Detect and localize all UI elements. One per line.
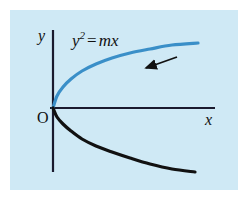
figure-root: y2=mx y x O [0,0,248,200]
equation-label: y2=mx [72,30,118,49]
x-axis-label: x [205,112,212,128]
equation-operator: = [85,31,99,50]
y-axis-label: y [38,28,45,44]
direction-arrow [146,57,177,68]
equation-base: y [72,31,80,50]
direction-arrow-shaft [146,57,177,68]
lower-branch-curve [53,108,195,172]
upper-branch-curve [53,43,198,108]
equation-right: mx [99,31,119,50]
origin-label: O [37,110,49,126]
